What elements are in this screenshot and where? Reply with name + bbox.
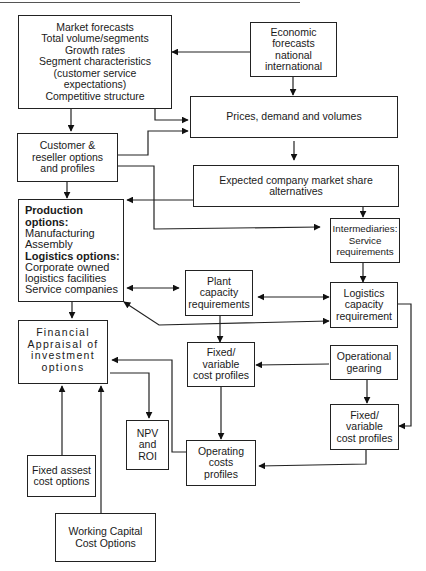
node-fixed-variable-cost-2: Fixed/ variable cost profiles: [330, 404, 399, 450]
node-market-share-alternatives: Expected company market share alternativ…: [193, 165, 399, 207]
node-production-logistics-options: Production options: Manufacturing Assemb…: [18, 199, 124, 302]
node-economic-forecasts: Economic forecasts national internationa…: [250, 22, 337, 77]
node-intermediaries: Intermediaries: Service requirements: [330, 218, 400, 263]
edge-fv2-to-operating: [259, 450, 366, 466]
edge-financial-to-npv: [110, 373, 149, 418]
node-fixed-asset-cost-options: Fixed assest cost options: [27, 455, 96, 497]
node-operating-costs-profiles: Operating costs profiles: [186, 440, 256, 486]
node-working-capital-cost-options: Working Capital Cost Options: [55, 513, 156, 562]
edge-market-to-prices: [155, 108, 188, 120]
production-options-heading: Production options:: [25, 205, 105, 228]
edge-logistics-to-fv2: [398, 304, 411, 426]
node-market-forecasts: Market forecasts Total volume/segments G…: [18, 15, 172, 109]
edge-gearing-to-fv1: [256, 364, 329, 365]
edge-customer-to-prices: [118, 131, 188, 155]
node-plant-capacity: Plant capacity requirements: [185, 270, 253, 316]
node-npv-roi: NPV and ROI: [126, 420, 169, 470]
node-fixed-variable-cost-1: Fixed/ variable cost profiles: [187, 342, 255, 387]
node-operational-gearing: Operational gearing: [330, 345, 398, 380]
node-financial-appraisal: Financial Appraisal of investment option…: [18, 320, 108, 384]
node-prices-demand-volumes: Prices, demand and volumes: [190, 96, 398, 138]
node-logistics-capacity: Logistics capacity requirement: [330, 282, 398, 328]
node-customer-reseller: Customer & reseller options and profiles: [17, 133, 118, 182]
